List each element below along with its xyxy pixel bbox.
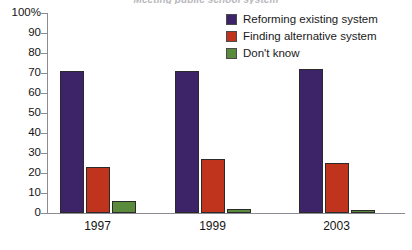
y-axis-tick-label: 80 (1, 47, 41, 58)
bar[interactable] (175, 71, 199, 213)
y-axis-tick-label: 70 (1, 67, 41, 78)
y-axis-tick-mark (41, 133, 47, 134)
bar[interactable] (351, 210, 375, 213)
bar-group: 2003 (299, 13, 374, 213)
y-axis-tick-label: 100% (1, 7, 41, 18)
bar[interactable] (112, 201, 136, 213)
y-axis-tick-label: 30 (1, 147, 41, 158)
y-axis-tick-label: 10 (1, 187, 41, 198)
y-axis-tick-mark (41, 113, 47, 114)
bar[interactable] (201, 159, 225, 213)
y-axis-ticks: 100%9080706050403020100 (47, 13, 48, 213)
y-axis-tick-label: 20 (1, 167, 41, 178)
y-axis-tick-mark (41, 193, 47, 194)
y-axis-tick-label: 50 (1, 107, 41, 118)
bar-chart: Meeting public school system Reforming e… (0, 0, 412, 250)
y-axis-tick-mark (41, 153, 47, 154)
y-axis-tick-label: 0 (1, 207, 41, 218)
bar-group: 1997 (60, 13, 135, 213)
chart-title: Meeting public school system (0, 0, 412, 4)
y-axis-tick-mark (41, 53, 47, 54)
bar-group: 1999 (175, 13, 250, 213)
y-axis-tick-mark (41, 213, 47, 214)
x-axis-category-label: 1997 (38, 219, 158, 233)
plot-area: 100%9080706050403020100 199719992003 (47, 13, 405, 213)
x-axis-category-label: 2003 (277, 219, 397, 233)
y-axis-tick-mark (41, 93, 47, 94)
bar[interactable] (86, 167, 110, 213)
y-axis-tick-label: 40 (1, 127, 41, 138)
y-axis-tick-mark (41, 73, 47, 74)
y-axis-tick-mark (41, 13, 47, 14)
bar[interactable] (60, 71, 84, 213)
x-axis-category-label: 1999 (153, 219, 273, 233)
y-axis-tick-label: 90 (1, 27, 41, 38)
x-axis-line (47, 213, 405, 214)
bar[interactable] (227, 209, 251, 213)
y-axis-tick-label: 60 (1, 87, 41, 98)
bar[interactable] (325, 163, 349, 213)
y-axis-tick-mark (41, 33, 47, 34)
bar[interactable] (299, 69, 323, 213)
y-axis-tick-mark (41, 173, 47, 174)
